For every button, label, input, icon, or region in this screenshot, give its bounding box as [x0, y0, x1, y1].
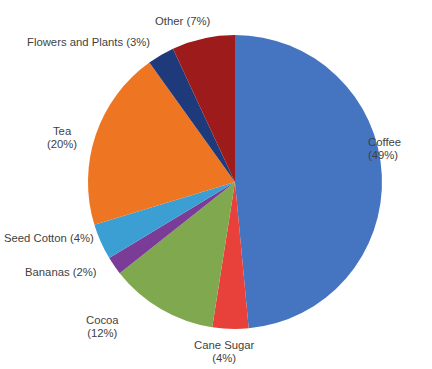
pie-label-tea: Tea(20%): [47, 125, 77, 152]
pie-label-name: Cocoa: [86, 314, 119, 327]
pie-label-cocoa: Cocoa(12%): [86, 314, 119, 341]
pie-label-coffee: Coffee(49%): [368, 136, 401, 163]
pie-label-name: Cane Sugar: [194, 339, 254, 352]
pie-label-name: Coffee: [368, 136, 401, 149]
pie-label-name: Seed Cotton (4%): [4, 232, 94, 245]
pie-label-name: Bananas (2%): [25, 266, 97, 279]
pie-label-bananas: Bananas (2%): [25, 266, 97, 279]
pie-label-value: (49%): [368, 149, 401, 162]
pie-label-name: Flowers and Plants (3%): [27, 36, 150, 49]
pie-label-name: Tea: [47, 125, 77, 138]
pie-label-value: (4%): [194, 352, 254, 365]
pie-graphic: [0, 0, 432, 369]
pie-label-value: (20%): [47, 138, 77, 151]
pie-label-value: (12%): [86, 327, 119, 340]
pie-slice-coffee[interactable]: [235, 35, 382, 328]
pie-label-flowers-and-plants: Flowers and Plants (3%): [27, 36, 150, 49]
pie-label-cane-sugar: Cane Sugar(4%): [194, 339, 254, 366]
pie-label-seed-cotton: Seed Cotton (4%): [4, 232, 94, 245]
pie-chart: Coffee(49%)Cane Sugar(4%)Cocoa(12%)Banan…: [0, 0, 432, 369]
pie-slices: [88, 35, 382, 329]
pie-label-name: Other (7%): [155, 15, 210, 28]
pie-label-other: Other (7%): [155, 15, 210, 28]
